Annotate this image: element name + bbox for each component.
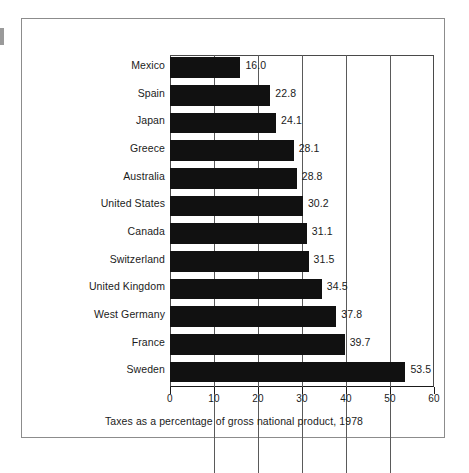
bar — [170, 306, 336, 327]
category-label: Greece — [130, 142, 165, 154]
bar-row: Canada31.1 — [170, 221, 434, 249]
x-tick-label-50: 50 — [370, 393, 410, 404]
bar-value-label: 28.8 — [302, 170, 323, 182]
bar — [170, 223, 307, 244]
category-label: United Kingdom — [89, 280, 165, 292]
x-tick-label-20: 20 — [238, 393, 278, 404]
bar-value-label: 37.8 — [341, 308, 362, 320]
bar — [170, 362, 405, 383]
x-tick-label-0: 0 — [150, 393, 190, 404]
bar-value-label: 24.1 — [281, 114, 302, 126]
bar-value-label: 31.5 — [314, 253, 335, 265]
category-label: Japan — [136, 114, 165, 126]
bar — [170, 334, 345, 355]
bar-row: Australia28.8 — [170, 166, 434, 194]
bar-value-label: 22.8 — [275, 87, 296, 99]
bar — [170, 57, 240, 78]
chart-frame: 0102030405060 Mexico16.0Spain22.8Japan24… — [21, 18, 445, 438]
category-label: Australia — [123, 170, 165, 182]
bar-row: Greece28.1 — [170, 138, 434, 166]
bar-row: Japan24.1 — [170, 110, 434, 138]
axis-caption: Taxes as a percentage of gross national … — [22, 415, 446, 427]
bar-value-label: 30.2 — [308, 197, 329, 209]
bar-value-label: 31.1 — [312, 225, 333, 237]
x-tick-label-60: 60 — [414, 393, 454, 404]
category-label: Spain — [138, 87, 165, 99]
category-label: United States — [101, 197, 165, 209]
bar-row: United States30.2 — [170, 193, 434, 221]
bar-value-label: 39.7 — [350, 336, 371, 348]
bar — [170, 196, 303, 217]
bar-row: Switzerland31.5 — [170, 249, 434, 277]
bar-row: United Kingdom34.5 — [170, 276, 434, 304]
category-label: Switzerland — [110, 253, 165, 265]
x-tick-label-10: 10 — [194, 393, 234, 404]
bar — [170, 279, 322, 300]
bar-value-label: 28.1 — [299, 142, 320, 154]
bar-row: Mexico16.0 — [170, 55, 434, 83]
bar — [170, 85, 270, 106]
bar-row: France39.7 — [170, 332, 434, 360]
category-label: Sweden — [126, 363, 165, 375]
x-tick-label-30: 30 — [282, 393, 322, 404]
category-label: France — [132, 336, 165, 348]
bar-value-label: 16.0 — [245, 59, 266, 71]
bar-row: Sweden53.5 — [170, 359, 434, 387]
category-label: Mexico — [131, 59, 165, 71]
bar — [170, 168, 297, 189]
category-label: West Germany — [94, 308, 165, 320]
category-label: Canada — [128, 225, 165, 237]
x-tick-label-40: 40 — [326, 393, 366, 404]
scan-edge-artifact — [0, 28, 4, 45]
bar-row: West Germany37.8 — [170, 304, 434, 332]
bar-value-label: 53.5 — [410, 363, 431, 375]
bar-row: Spain22.8 — [170, 83, 434, 111]
bar-value-label: 34.5 — [327, 280, 348, 292]
bar — [170, 113, 276, 134]
bar — [170, 251, 309, 272]
bar — [170, 140, 294, 161]
